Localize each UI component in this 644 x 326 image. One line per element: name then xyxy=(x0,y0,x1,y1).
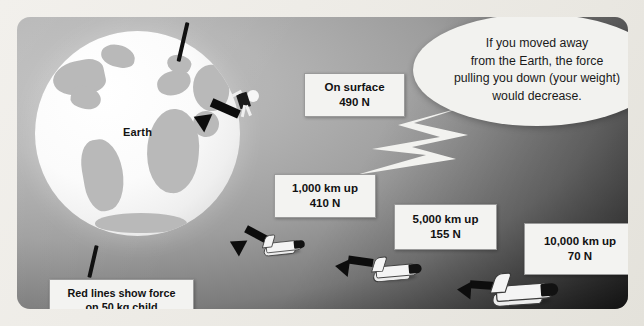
arrow-head xyxy=(456,281,471,300)
fact-box-line1: 1,000 km up xyxy=(292,181,358,196)
fact-box-line2: 490 N xyxy=(339,95,370,110)
force-arrow-icon-5000km xyxy=(335,252,373,278)
force-arrow-icon-surface xyxy=(193,101,239,135)
landmass-greenland xyxy=(99,42,136,70)
shuttle-nose xyxy=(408,264,422,274)
landmass-south-america xyxy=(77,136,129,214)
caption-line2: on 50 kg child xyxy=(86,300,158,309)
caption-box-red-lines: Red lines show force on 50 kg child xyxy=(49,279,194,309)
shuttle-nose xyxy=(293,240,305,249)
fact-box-line1: On surface xyxy=(324,80,384,95)
illustration-title: Gravitational force on a 50 kg child at … xyxy=(0,0,1,1)
arrow-shaft xyxy=(210,98,241,118)
shuttle-nose xyxy=(540,283,558,297)
fact-box-1000km: 1,000 km up 410 N xyxy=(274,174,376,218)
earth-axis-icon-lower xyxy=(87,245,98,278)
arrow-head xyxy=(334,257,350,277)
fact-box-10000km: 10,000 km up 70 N xyxy=(524,223,628,275)
fact-box-on-surface: On surface 490 N xyxy=(304,73,405,117)
arrow-head xyxy=(190,108,213,133)
speech-bubble-text: If you moved away from the Earth, the fo… xyxy=(444,35,628,105)
fact-box-line1: 5,000 km up xyxy=(413,212,479,227)
fact-box-line2: 155 N xyxy=(430,227,461,242)
fact-box-5000km: 5,000 km up 155 N xyxy=(394,204,497,250)
space-shuttle-icon-5000km xyxy=(369,253,428,285)
caption-line1: Red lines show force xyxy=(68,286,176,300)
fact-box-line1: 10,000 km up xyxy=(544,234,616,249)
arrow-head xyxy=(226,234,248,257)
fact-box-line2: 70 N xyxy=(568,249,592,264)
landmass-antarctic-fringe xyxy=(95,213,187,233)
illustration-panel: Earth xyxy=(17,17,628,309)
fact-box-line2: 410 N xyxy=(310,196,341,211)
person-leg-right xyxy=(245,105,252,116)
space-shuttle-icon-1000km xyxy=(260,231,311,259)
page-background: Earth xyxy=(0,0,644,326)
